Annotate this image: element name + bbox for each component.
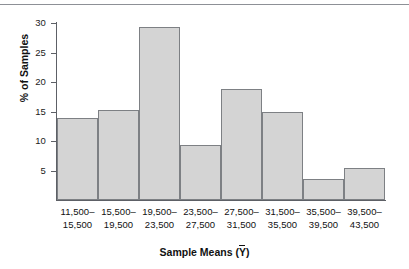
y-tick-label: 5 (6, 166, 46, 176)
histogram-bar (344, 168, 385, 200)
x-tick-label-line: 15,500– (98, 205, 139, 218)
x-tick-label: 19,500–23,500 (139, 205, 180, 231)
x-tick-label: 39,500–43,500 (344, 205, 385, 231)
x-tick-label-line: 19,500– (139, 205, 180, 218)
y-tick-mark (51, 141, 56, 142)
y-tick-mark (51, 53, 56, 54)
histogram-bar (221, 89, 262, 201)
y-tick-label: 25 (6, 48, 46, 58)
histogram-bar (139, 27, 180, 200)
page-top-rule (0, 4, 409, 5)
x-axis-line (56, 200, 386, 201)
y-tick-mark (51, 112, 56, 113)
x-tick-label-line: 35,500– (303, 205, 344, 218)
y-tick-label: 10 (6, 136, 46, 146)
x-tick-label-line: 35,500 (262, 218, 303, 231)
x-tick-label-line: 23,500 (139, 218, 180, 231)
y-tick-label: 20 (6, 77, 46, 87)
y-bar-symbol: Y (239, 246, 246, 258)
x-tick-label-line: 39,500– (344, 205, 385, 218)
histogram-bar (262, 112, 303, 201)
x-tick-label-line: 43,500 (344, 218, 385, 231)
x-tick-label-line: 31,500 (221, 218, 262, 231)
x-tick-label-line: 19,500 (98, 218, 139, 231)
x-tick-label-line: 27,500 (180, 218, 221, 231)
y-tick-label: 30 (6, 18, 46, 28)
x-axis-title-suffix: ) (246, 246, 250, 258)
x-tick-label-line: 23,500– (180, 205, 221, 218)
x-tick-label-line: 39,500 (303, 218, 344, 231)
histogram-bar (180, 145, 221, 200)
y-tick-label: 15 (6, 107, 46, 117)
histogram-bar (98, 110, 139, 200)
y-tick-mark (51, 82, 56, 83)
x-tick-label-line: 31,500– (262, 205, 303, 218)
x-tick-label: 23,500–27,500 (180, 205, 221, 231)
x-tick-label: 27,500–31,500 (221, 205, 262, 231)
y-tick-mark (51, 171, 56, 172)
histogram-bar (57, 118, 98, 200)
x-tick-label: 31,500–35,500 (262, 205, 303, 231)
x-tick-label: 15,500–19,500 (98, 205, 139, 231)
x-tick-label-line: 27,500– (221, 205, 262, 218)
histogram-figure: % of Samples 51015202530 11,500–15,50015… (0, 0, 409, 269)
x-tick-label-line: 15,500 (57, 218, 98, 231)
bar-series (57, 23, 385, 200)
x-tick-label: 11,500–15,500 (57, 205, 98, 231)
histogram-bar (303, 179, 344, 200)
x-tick-label-line: 11,500– (57, 205, 98, 218)
y-tick-mark (51, 23, 56, 24)
x-axis-tick-labels: 11,500–15,50015,500–19,50019,500–23,5002… (57, 205, 385, 239)
x-axis-title-prefix: Sample Means ( (160, 246, 239, 258)
x-tick-label: 35,500–39,500 (303, 205, 344, 231)
x-axis-title: Sample Means (Y) (0, 246, 409, 258)
